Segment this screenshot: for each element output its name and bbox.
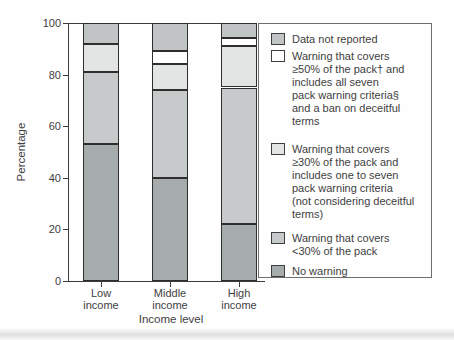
legend-label-data-not-reported: Data not reported: [292, 33, 378, 46]
page-bottom-shadow: [0, 328, 454, 340]
legend-items: Data not reportedWarning that covers ≥50…: [271, 33, 425, 278]
segment-low-data-not-reported: [83, 23, 119, 44]
y-axis-line: [68, 23, 69, 282]
segment-middle-data-not-reported: [152, 23, 188, 51]
legend-swatch-no-warning: [271, 265, 285, 277]
legend-item-data-not-reported: Data not reported: [271, 33, 425, 46]
legend-swatch-warning-that-covers: [271, 143, 285, 155]
segment-high-warning-that-covers: [221, 38, 257, 46]
y-tick-label-0: 0: [35, 276, 61, 287]
x-category-label-low: Low income: [69, 287, 133, 311]
stacked-bar-chart-figure: Percentage 020406080100 Low incomeMiddle…: [0, 0, 454, 340]
legend-label-warning-that-covers: Warning that covers ≥30% of the pack and…: [292, 143, 414, 221]
y-tick-label-60: 60: [35, 121, 61, 132]
segment-high-warning-that-covers: [221, 88, 257, 225]
legend: Data not reportedWarning that covers ≥50…: [258, 23, 432, 278]
legend-swatch-warning-that-covers: [271, 232, 285, 244]
segment-high-warning-that-covers: [221, 46, 257, 87]
legend-item-warning-that-covers: Warning that covers <30% of the pack: [271, 232, 425, 258]
segment-high-no-warning: [221, 224, 257, 281]
x-axis-line: [68, 281, 265, 282]
x-axis-title: Income level: [111, 313, 231, 325]
y-tick-label-40: 40: [35, 173, 61, 184]
segment-low-warning-that-covers: [83, 44, 119, 72]
segment-low-warning-that-covers: [83, 72, 119, 144]
y-axis-title: Percentage: [15, 123, 27, 182]
segment-middle-no-warning: [152, 178, 188, 281]
segment-middle-warning-that-covers: [152, 51, 188, 64]
legend-item-warning-that-covers: Warning that covers ≥50% of the pack† an…: [271, 50, 425, 128]
x-category-label-high: High income: [207, 287, 271, 311]
segment-low-no-warning: [83, 144, 119, 281]
legend-item-warning-that-covers: Warning that covers ≥30% of the pack and…: [271, 143, 425, 221]
y-tick-label-20: 20: [35, 224, 61, 235]
legend-label-warning-that-covers: Warning that covers <30% of the pack: [292, 232, 389, 258]
legend-label-warning-that-covers: Warning that covers ≥50% of the pack† an…: [292, 50, 404, 128]
segment-high-data-not-reported: [221, 23, 257, 38]
segment-middle-warning-that-covers: [152, 90, 188, 178]
y-tick-label-100: 100: [35, 18, 61, 29]
segment-middle-warning-that-covers: [152, 64, 188, 90]
legend-swatch-data-not-reported: [271, 33, 285, 45]
y-tick-label-80: 80: [35, 70, 61, 81]
legend-label-no-warning: No warning: [292, 265, 348, 278]
legend-swatch-warning-that-covers: [271, 50, 285, 62]
legend-item-no-warning: No warning: [271, 265, 425, 278]
x-category-label-middle: Middle income: [138, 287, 202, 311]
